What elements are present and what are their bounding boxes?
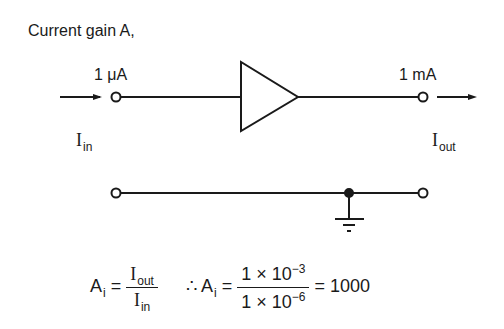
common-terminal-right <box>419 189 428 198</box>
input-terminal <box>112 93 121 102</box>
ground-icon <box>335 193 364 231</box>
gain-formula: Ai = Iout Iin ∴ Ai = 1 × 10−3 1 × 10−6 =… <box>90 262 370 313</box>
input-arrow-head-icon <box>93 94 102 100</box>
amplifier-triangle-icon <box>241 62 298 131</box>
output-arrow-head-icon <box>468 94 477 100</box>
output-current-label: Iout <box>432 130 456 151</box>
common-terminal-left <box>112 189 121 198</box>
output-terminal <box>419 93 428 102</box>
output-current-value: 1 mA <box>399 66 436 84</box>
input-current-label: Iin <box>76 130 92 151</box>
input-current-value: 1 μA <box>94 66 127 84</box>
